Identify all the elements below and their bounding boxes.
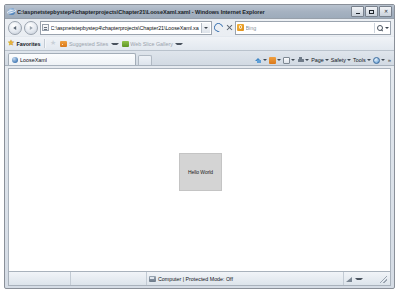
forward-button[interactable] [24,21,38,35]
search-go-button[interactable] [374,23,384,33]
web-slice-gallery-button[interactable]: Web Slice Gallery [122,41,184,47]
help-menu-button[interactable] [373,57,385,64]
search-provider-chevron-icon[interactable] [385,27,389,29]
chevron-down-icon[interactable] [381,59,385,61]
page-menu-button[interactable]: Page [311,57,329,63]
close-icon: ✕ [380,7,391,16]
chevron-down-icon[interactable] [325,59,329,61]
status-progress-area [71,272,147,285]
hello-world-box: Hello World [179,153,222,191]
maximize-icon [366,7,377,16]
xaml-canvas: Hello World [9,69,390,271]
ie-logo-icon [8,8,15,15]
stop-button[interactable] [225,22,233,34]
tools-menu-label: Tools [353,57,366,63]
window-title: C:\aspnetstepbystep4\chapterprojects\Cha… [17,9,351,15]
favorites-label: Favorites [17,41,41,47]
read-mail-icon [283,57,290,64]
rss-icon [60,41,67,47]
page-icon [42,24,49,31]
toolbar-separator [44,39,46,48]
address-toolbar: C:\aspnetstepbystep4\chapterprojects\Cha… [5,19,394,36]
status-message [9,272,71,285]
zoom-icon [346,276,353,282]
home-button[interactable] [255,57,267,64]
page-menu-label: Page [311,57,324,63]
search-input[interactable]: Bing [246,25,375,31]
address-input[interactable]: C:\aspnetstepbystep4\chapterprojects\Cha… [51,25,202,31]
chevron-down-icon[interactable] [291,59,295,61]
home-icon [255,57,262,64]
bing-icon [237,24,244,31]
web-slice-icon [122,41,129,47]
help-icon [373,57,380,64]
security-zone[interactable]: Computer | Protected Mode: Off [147,272,344,285]
chevron-down-icon[interactable] [175,43,183,45]
print-icon [297,57,304,64]
close-button[interactable]: ✕ [379,6,392,17]
internet-explorer-window: C:\aspnetstepbystep4\chapterprojects\Cha… [4,4,395,289]
favorites-button[interactable]: Favorites [8,40,40,47]
zoom-control[interactable] [344,272,390,285]
chevron-down-icon [204,27,208,29]
tools-menu-button[interactable]: Tools [353,57,371,63]
stop-icon [226,24,233,31]
refresh-icon [212,21,225,34]
chevron-down-icon[interactable] [263,59,267,61]
tab-bar: LooseXaml Page [5,51,394,66]
star-icon [8,40,15,47]
chevron-down-icon[interactable] [111,43,119,45]
refresh-button[interactable] [214,22,223,34]
command-bar-overflow-button[interactable]: » [387,57,391,63]
hello-world-label: Hello World [188,169,213,175]
status-bar: Computer | Protected Mode: Off [8,271,391,286]
maximize-button[interactable] [365,6,378,17]
back-button[interactable] [8,21,22,35]
search-box[interactable]: Bing [235,21,391,35]
forward-arrow-icon [30,26,33,30]
security-zone-label: Computer | Protected Mode: Off [158,276,233,282]
title-bar: C:\aspnetstepbystep4\chapterprojects\Cha… [5,5,394,19]
safety-menu-label: Safety [331,57,346,63]
window-controls: ✕ [351,6,392,17]
new-tab-button[interactable] [138,55,152,65]
back-arrow-icon [13,26,16,30]
add-to-favorites-bar-icon[interactable] [50,40,57,47]
tab-loosexaml[interactable]: LooseXaml [8,53,136,65]
chevron-down-icon[interactable] [347,59,351,61]
print-button[interactable] [297,57,309,64]
command-bar: Page Safety Tools » [255,57,391,66]
suggested-sites-label: Suggested Sites [69,41,108,47]
page-viewport: Hello World [8,68,391,271]
resize-grip-icon[interactable] [378,273,388,284]
web-slice-label: Web Slice Gallery [130,41,173,47]
search-icon [377,25,383,31]
address-dropdown-button[interactable] [201,23,210,33]
chevron-down-icon[interactable] [305,59,309,61]
chevron-down-icon[interactable] [367,59,371,61]
feeds-icon [269,57,276,64]
address-bar[interactable]: C:\aspnetstepbystep4\chapterprojects\Cha… [40,21,212,35]
safety-menu-button[interactable]: Safety [331,57,351,63]
minimize-icon [352,7,363,16]
feeds-button[interactable] [269,57,281,64]
page-favicon-icon [12,57,18,63]
favorites-bar: Favorites Suggested Sites Web Slice Gall… [5,36,394,51]
suggested-sites-button[interactable]: Suggested Sites [60,41,118,47]
computer-zone-icon [149,276,156,282]
read-mail-button[interactable] [283,57,295,64]
minimize-button[interactable] [351,6,364,17]
chevron-down-icon[interactable] [355,278,363,280]
tab-label: LooseXaml [20,57,47,63]
chevron-down-icon[interactable] [277,59,281,61]
